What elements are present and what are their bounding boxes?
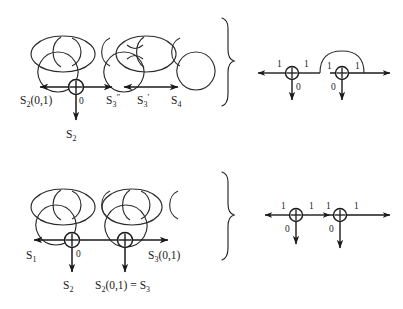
xor-node-bottom-right-1 xyxy=(290,209,303,222)
label-equation: S2(0,1) = S3 xyxy=(95,279,150,294)
label-s4: S4 xyxy=(171,94,181,109)
bit-bottom-2c: 0 xyxy=(329,224,334,234)
state-line-top: S2(0,1) 0 S3″ S3′ S4 S2 xyxy=(20,80,181,144)
bit-top-2c: 0 xyxy=(331,82,336,92)
xor-node-bottom-2 xyxy=(118,233,133,248)
state-line-bottom: S1 0 S3(0,1) S2 S2(0,1) = S3 xyxy=(26,233,181,295)
bit-bottom-1b: 1 xyxy=(309,201,314,211)
bit-top-1c: 0 xyxy=(296,82,301,92)
brace-bottom xyxy=(222,172,234,260)
bit-bottom-1a: 1 xyxy=(281,201,286,211)
xor-node-top-1 xyxy=(69,80,84,95)
bit-bottom-2b: 1 xyxy=(354,201,359,211)
bit-bottom-2a: 1 xyxy=(326,201,331,211)
label-s2-out-top: S2 xyxy=(66,128,76,143)
chain-bottom xyxy=(31,189,178,247)
figure-canvas: S2(0,1) 0 S3″ S3′ S4 S2 xyxy=(0,0,403,309)
xor-node-top-right-1 xyxy=(286,67,299,80)
label-s2-out-bottom: S2 xyxy=(63,279,73,294)
label-s3-doubleprime: S3″ xyxy=(106,92,120,109)
bit-line-bottom: 1 1 0 1 1 0 xyxy=(265,201,390,248)
xor-node-top-right-2 xyxy=(336,67,349,80)
label-zero-top: 0 xyxy=(79,96,84,106)
brace-top xyxy=(222,18,234,106)
bit-top-2b: 1 xyxy=(355,61,360,71)
bit-line-top: 1 1 0 1 1 0 xyxy=(258,51,390,100)
bit-top-1a: 1 xyxy=(277,59,282,69)
bit-bottom-1c: 0 xyxy=(285,224,290,234)
bit-top-1b: 1 xyxy=(304,59,309,69)
label-s2-01: S2(0,1) xyxy=(20,94,53,109)
label-zero-bottom: 0 xyxy=(76,249,81,259)
chain-top xyxy=(31,36,215,92)
label-s3-01: S3(0,1) xyxy=(148,249,181,264)
label-s1: S1 xyxy=(26,249,36,264)
xor-node-bottom-right-2 xyxy=(334,209,347,222)
label-s3-prime: S3′ xyxy=(137,92,149,109)
xor-node-bottom-1 xyxy=(65,233,80,248)
figure-root: S2(0,1) 0 S3″ S3′ S4 S2 xyxy=(0,0,403,309)
bit-top-2a: 1 xyxy=(327,61,332,71)
